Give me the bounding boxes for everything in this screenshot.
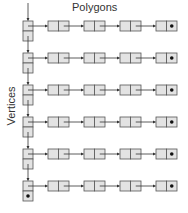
node-data-cell — [156, 85, 167, 95]
node-data-cell — [48, 53, 59, 63]
node-data-cell — [48, 181, 59, 191]
node-data-cell — [84, 53, 95, 63]
node-data-cell — [84, 117, 95, 127]
node-data-cell — [120, 149, 131, 159]
null-dot-icon — [170, 120, 174, 124]
node-data-cell — [120, 21, 131, 31]
linked-list-diagram — [0, 0, 188, 213]
node-data-cell — [120, 117, 131, 127]
null-dot-icon — [170, 152, 174, 156]
node-data-cell — [156, 117, 167, 127]
node-data-cell — [84, 85, 95, 95]
node-data-cell — [84, 21, 95, 31]
node-data-cell — [84, 181, 95, 191]
node-data-cell — [120, 181, 131, 191]
node-data-cell — [120, 85, 131, 95]
node-data-cell — [156, 21, 167, 31]
null-dot-icon — [170, 184, 174, 188]
null-dot-icon — [170, 24, 174, 28]
node-data-cell — [156, 181, 167, 191]
null-dot-icon — [26, 194, 30, 198]
node-data-cell — [48, 21, 59, 31]
node-data-cell — [156, 149, 167, 159]
node-data-cell — [120, 53, 131, 63]
node-data-cell — [156, 53, 167, 63]
node-data-cell — [84, 149, 95, 159]
null-dot-icon — [170, 56, 174, 60]
node-data-cell — [48, 149, 59, 159]
node-data-cell — [48, 85, 59, 95]
null-dot-icon — [170, 88, 174, 92]
node-data-cell — [48, 117, 59, 127]
